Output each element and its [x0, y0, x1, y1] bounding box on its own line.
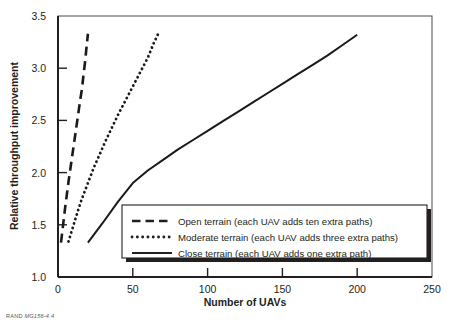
y-tick-label: 2.0 — [31, 167, 46, 179]
x-tick-label: 50 — [127, 283, 139, 295]
x-tick-label: 100 — [199, 283, 217, 295]
y-tick-label: 2.5 — [31, 114, 46, 126]
y-tick-label: 1.0 — [31, 271, 46, 283]
x-tick-label: 150 — [274, 283, 292, 295]
x-axis-title: Number of UAVs — [204, 296, 287, 308]
y-tick-label: 3.5 — [31, 10, 46, 22]
y-tick-label: 3.0 — [31, 62, 46, 74]
y-axis-title: Relative throughput improvement — [8, 61, 20, 230]
y-tick-labels: 1.01.52.02.53.03.5 — [31, 10, 46, 283]
x-tick-label: 200 — [348, 283, 366, 295]
source-note: RAND MG156-4.4 — [6, 313, 54, 319]
y-tick-label: 1.5 — [31, 219, 46, 231]
legend-label: Close terrain (each UAV adds one extra p… — [178, 248, 371, 259]
source-note-prefix: RAND — [6, 313, 23, 319]
source-note-id: MG156-4.4 — [24, 313, 54, 319]
chart-canvas: 1.01.52.02.53.03.5 050100150200250 Relat… — [0, 0, 452, 329]
x-tick-label: 250 — [423, 283, 441, 295]
x-tick-label: 0 — [55, 283, 61, 295]
legend-label: Moderate terrain (each UAV adds three ex… — [178, 232, 398, 243]
legend: Open terrain (each UAV adds ten extra pa… — [122, 205, 431, 262]
figure-container: 1.01.52.02.53.03.5 050100150200250 Relat… — [0, 0, 452, 329]
x-tick-labels: 050100150200250 — [55, 283, 441, 295]
legend-label: Open terrain (each UAV adds ten extra pa… — [178, 216, 372, 227]
